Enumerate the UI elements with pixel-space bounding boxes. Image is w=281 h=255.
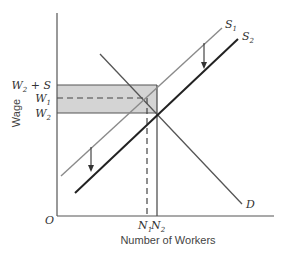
x-axis-title: Number of Workers (120, 234, 216, 246)
label-w1: W1 (35, 92, 51, 107)
label-s1: S1 (225, 18, 237, 33)
label-w2: W2 (35, 107, 51, 122)
label-n2: N2 (150, 219, 166, 234)
label-s2: S2 (242, 30, 255, 45)
y-axis-title: Wage (10, 99, 22, 127)
label-d: D (245, 198, 255, 211)
label-origin: O (45, 214, 54, 227)
label-n1: N1 (137, 219, 152, 234)
demand-curve (100, 54, 242, 204)
labor-market-diagram: W2 + S W1 W2 O N1 N2 S1 S2 D Number of W… (0, 0, 281, 255)
